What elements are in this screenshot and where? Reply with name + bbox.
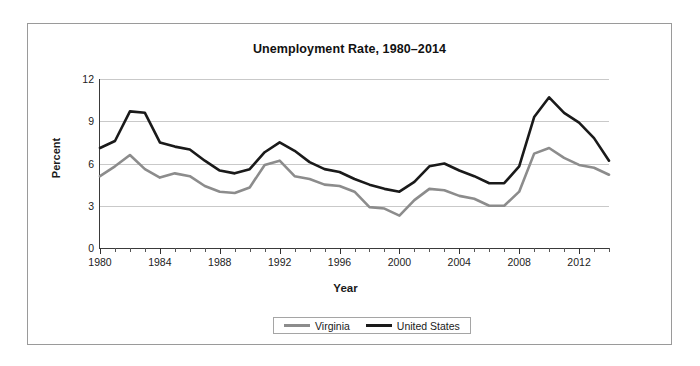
x-tick-mark [115,248,116,252]
x-tick-mark [100,248,101,254]
x-tick-mark [534,248,535,252]
x-tick-mark [145,248,146,252]
legend-label: United States [397,320,460,332]
x-tick-mark [250,248,251,252]
legend-swatch [284,324,310,327]
x-tick-mark [280,248,281,254]
x-tick-mark [474,248,475,252]
y-axis-title: Percent [50,113,62,203]
x-tick-mark [429,248,430,252]
x-tick-mark [325,248,326,252]
series-line-virginia [100,148,609,216]
x-tick-mark [130,248,131,252]
x-tick-label: 2008 [507,256,530,268]
y-tick-label: 0 [88,242,94,254]
x-tick-mark [220,248,221,254]
y-tick-label: 6 [88,158,94,170]
legend-swatch [366,324,392,327]
x-tick-mark [310,248,311,252]
x-tick-mark [444,248,445,252]
x-tick-label: 1988 [208,256,231,268]
series-lines-group [100,79,609,248]
chart-figure-frame: Unemployment Rate, 1980–2014 Percent 036… [27,23,672,345]
x-tick-mark [205,248,206,252]
x-tick-mark [384,248,385,252]
legend-item-united-states[interactable]: United States [366,320,460,332]
x-tick-mark [190,248,191,252]
x-tick-label: 1996 [328,256,351,268]
x-tick-mark [564,248,565,252]
x-tick-mark [504,248,505,252]
x-tick-mark [594,248,595,252]
x-tick-mark [459,248,460,254]
legend-label: Virginia [315,320,350,332]
x-tick-mark [609,248,610,252]
x-tick-mark [340,248,341,254]
x-tick-label: 2000 [388,256,411,268]
x-tick-mark [175,248,176,252]
x-tick-mark [295,248,296,252]
x-tick-mark [355,248,356,252]
x-tick-label: 1980 [88,256,111,268]
chart-legend: VirginiaUnited States [273,317,471,334]
x-tick-mark [399,248,400,254]
x-tick-mark [519,248,520,254]
x-tick-label: 1984 [148,256,171,268]
x-tick-label: 2012 [567,256,590,268]
x-tick-mark [160,248,161,254]
x-tick-mark [369,248,370,252]
x-tick-label: 2004 [448,256,471,268]
chart-title: Unemployment Rate, 1980–2014 [28,42,671,56]
plot-area: 036912 198019841988199219962000200420082… [99,79,609,249]
x-tick-label: 1992 [268,256,291,268]
y-tick-label: 3 [88,200,94,212]
x-axis-title: Year [73,282,618,294]
x-tick-mark [549,248,550,252]
y-tick-label: 12 [82,73,94,85]
y-tick-label: 9 [88,115,94,127]
x-tick-mark [414,248,415,252]
x-tick-mark [489,248,490,252]
legend-item-virginia[interactable]: Virginia [284,320,350,332]
x-tick-mark [579,248,580,254]
x-tick-mark [265,248,266,252]
series-line-united-states [100,97,609,191]
x-tick-mark [235,248,236,252]
